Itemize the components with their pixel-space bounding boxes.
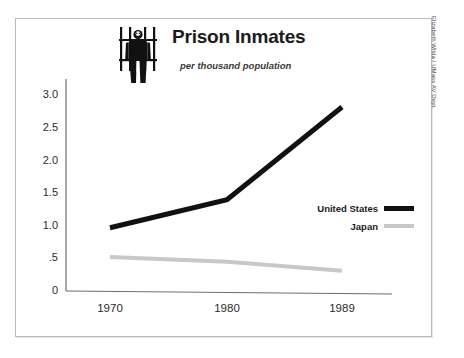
chart-legend: United States Japan [296, 199, 414, 235]
y-axis-tick-label: 0 [24, 285, 58, 296]
x-axis-tick-label: 1980 [197, 302, 257, 314]
legend-label-japan: Japan [351, 221, 378, 232]
chart-subtitle: per thousand population [180, 60, 291, 71]
legend-item-united-states: United States [296, 199, 414, 217]
x-axis-tick-label: 1989 [312, 302, 372, 314]
y-axis-tick-label: 1.0 [24, 220, 58, 231]
legend-swatch-united-states [384, 206, 414, 211]
y-axis-tick-label: 2.0 [24, 155, 58, 166]
credit-text: Elizabeth Wilda / UMass AV Dept. [431, 16, 437, 109]
prisoner-behind-bars-icon [117, 26, 159, 84]
y-axis-tick-label: .5 [24, 252, 58, 263]
y-axis-tick-label: 3.0 [24, 89, 58, 100]
page-title: Prison Inmates [172, 26, 305, 48]
legend-item-japan: Japan [296, 217, 414, 235]
x-axis-tick-label: 1970 [80, 302, 140, 314]
y-axis-tick-label: 1.5 [24, 187, 58, 198]
legend-label-united-states: United States [317, 203, 378, 214]
legend-swatch-japan [384, 224, 414, 228]
y-axis-tick-label: 2.5 [24, 122, 58, 133]
